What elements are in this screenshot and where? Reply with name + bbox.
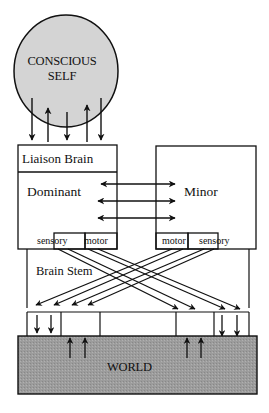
minor-motor-label: motor (162, 235, 186, 246)
liaison-brain-label: Liaison Brain (22, 151, 93, 167)
conscious-label-line1: CONSCIOUS (26, 54, 98, 69)
minor-sensory-label: sensory (199, 235, 230, 246)
efferent-arrows (37, 315, 237, 336)
dominant-motor-label: motor (84, 235, 108, 246)
conscious-self-label: CONSCIOUS SELF (26, 54, 98, 84)
crossing-pathways (36, 249, 240, 309)
dominant-label: Dominant (27, 184, 81, 200)
brain-stem-label: Brain Stem (36, 264, 93, 279)
relay-row (27, 312, 249, 336)
conscious-label-line2: SELF (26, 69, 98, 84)
dominant-sensory-label: sensory (37, 235, 68, 246)
world-label: WORLD (107, 360, 152, 375)
minor-label: Minor (184, 184, 218, 200)
